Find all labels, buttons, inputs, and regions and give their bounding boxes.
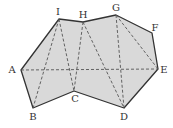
label-B: B <box>29 111 36 122</box>
label-H: H <box>79 9 88 20</box>
label-A: A <box>7 64 16 75</box>
polygon-diagram: A B C D E F G H I <box>0 0 173 128</box>
label-E: E <box>160 64 167 75</box>
label-G: G <box>112 2 120 13</box>
label-D: D <box>120 111 128 122</box>
polygon-shape <box>21 15 158 108</box>
label-C: C <box>71 93 79 104</box>
diagram-canvas: A B C D E F G H I <box>0 0 173 128</box>
label-I: I <box>56 6 60 17</box>
label-F: F <box>152 22 159 33</box>
